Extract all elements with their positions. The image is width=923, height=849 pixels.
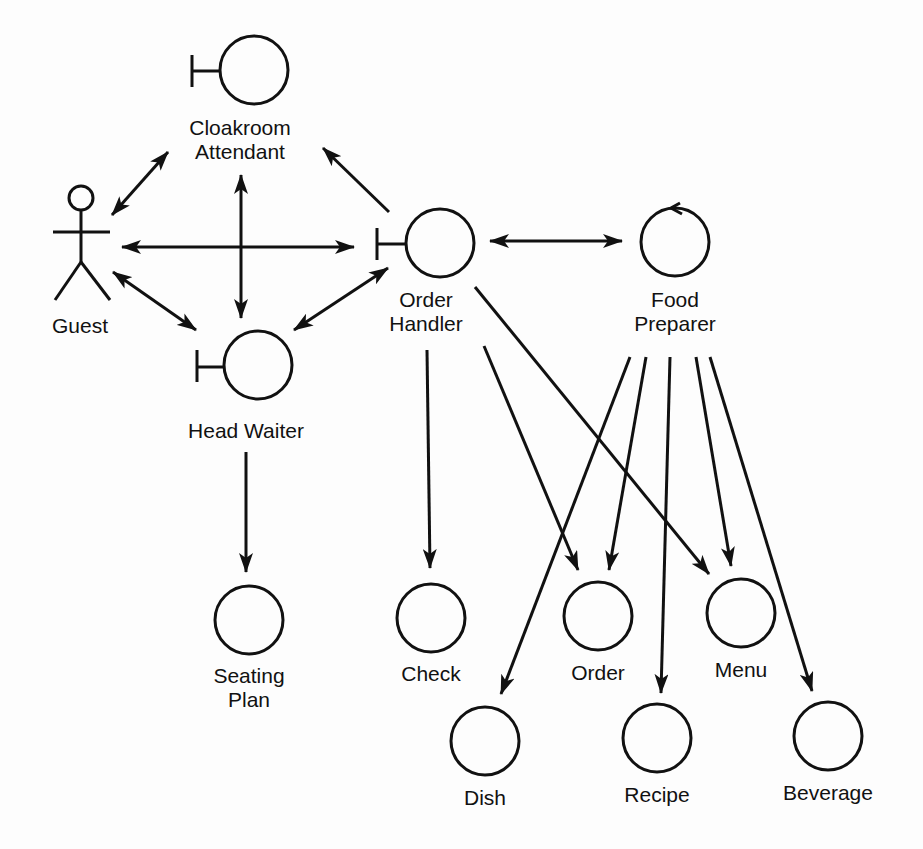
guest-label: Guest (52, 314, 108, 337)
edge-head-waiter-order-handler (294, 268, 388, 330)
order-handler-label-line2: Handler (389, 312, 463, 335)
edge-order-handler-cloakroom (323, 148, 389, 212)
edge-order-handler-order (484, 346, 578, 570)
menu-label: Menu (715, 658, 768, 681)
order-entity-icon (564, 582, 632, 650)
head-waiter-boundary-icon (197, 331, 292, 399)
seating-plan-entity-icon (215, 586, 283, 654)
order-handler-boundary-icon (377, 209, 474, 277)
cloakroom-attendant-boundary-icon (192, 36, 288, 104)
menu-entity-icon (707, 579, 775, 647)
seating-plan-label-line2: Plan (228, 688, 270, 711)
order-label: Order (571, 661, 625, 684)
edge-food-preparer-dish (501, 357, 630, 694)
seating-plan-label-line1: Seating (213, 664, 284, 687)
food-preparer-control-icon (641, 203, 709, 276)
edge-order-handler-check (427, 350, 430, 568)
head-waiter-label: Head Waiter (188, 419, 304, 442)
dish-label: Dish (464, 786, 506, 809)
edge-guest-head-waiter (113, 272, 196, 330)
cloakroom-attendant-label-line2: Attendant (195, 140, 285, 163)
diagram-canvas: Guest Cloakroom Attendant Head Waiter Or… (0, 0, 923, 849)
edge-guest-cloakroom (112, 152, 168, 215)
guest-actor-icon (53, 186, 110, 300)
order-handler-label-line1: Order (399, 288, 453, 311)
beverage-label: Beverage (783, 781, 873, 804)
edge-food-preparer-order (609, 357, 646, 570)
edge-food-preparer-menu (696, 357, 731, 566)
diagram-svg: Guest Cloakroom Attendant Head Waiter Or… (0, 0, 923, 849)
check-label: Check (401, 662, 461, 685)
recipe-entity-icon (623, 704, 691, 772)
dish-entity-icon (451, 707, 519, 775)
beverage-entity-icon (794, 702, 862, 770)
food-preparer-label-line1: Food (651, 288, 699, 311)
food-preparer-label-line2: Preparer (634, 312, 716, 335)
recipe-label: Recipe (624, 783, 689, 806)
cloakroom-attendant-label-line1: Cloakroom (189, 116, 291, 139)
check-entity-icon (397, 584, 465, 652)
